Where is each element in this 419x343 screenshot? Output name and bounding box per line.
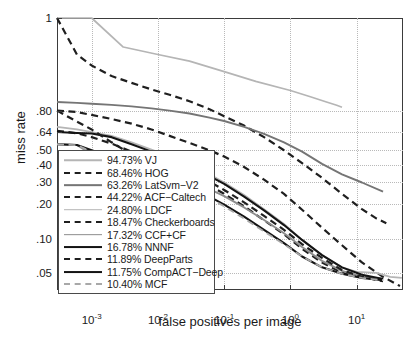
legend-label: 94.73% VJ [104,154,157,166]
y-tick-label: .20 [36,198,52,210]
legend-item-nnnf[interactable]: 16.78% NNNF [62,241,210,253]
y-tick-label: .64 [36,126,52,138]
legend-item-ldcf[interactable]: 24.80% LDCF [62,204,210,216]
legend-swatch [62,229,104,241]
y-tick-label: .40 [36,159,52,171]
legend-swatch [62,278,104,290]
legend-label: 68.46% HOG [104,167,168,179]
legend-swatch [62,204,104,216]
x-tick-mark [290,285,291,290]
chart-root: miss rate 1.80.64.50.40.30.20.10.05 10-3… [0,0,419,343]
y-tick-label: .10 [36,233,52,245]
legend-label: 63.26% LatSvm−V2 [104,179,199,191]
legend-label: 11.89% DeepParts [104,253,193,265]
legend-swatch [62,253,104,265]
legend-item-acf-caltech[interactable]: 44.22% ACF−Caltech [62,191,210,203]
legend-item-deepparts[interactable]: 11.89% DeepParts [62,253,210,265]
legend-label: 18.47% Checkerboards [104,216,215,228]
y-tick-mark [57,132,62,133]
legend-swatch [62,154,104,166]
y-tick-label: .05 [36,267,52,279]
legend-swatch [62,179,104,191]
legend-label: 10.40% MCF [104,278,167,290]
legend-item-latsvm-v2[interactable]: 63.26% LatSvm−V2 [62,179,210,191]
legend-label: 17.32% CCF+CF [104,229,186,241]
y-tick-label: .50 [36,144,52,156]
legend-item-ccf-cf[interactable]: 17.32% CCF+CF [62,228,210,240]
y-axis-label: miss rate [13,88,28,188]
legend-swatch [62,167,104,179]
legend-swatch [62,216,104,228]
series-line-vj [57,18,342,107]
legend-label: 11.75% CompACT−Deep [104,266,223,278]
x-axis-label: false positives per image [57,314,403,329]
legend-label: 16.78% NNNF [104,241,174,253]
legend-swatch [62,191,104,203]
legend-item-hog[interactable]: 68.46% HOG [62,166,210,178]
y-tick-mark [57,18,62,19]
legend-swatch [62,266,104,278]
legend-label: 44.22% ACF−Caltech [104,191,206,203]
legend-item-vj[interactable]: 94.73% VJ [62,154,210,166]
y-tick-label: 1 [46,12,52,24]
y-tick-mark [57,111,62,112]
legend-item-compact-deep[interactable]: 11.75% CompACT−Deep [62,266,210,278]
x-tick-mark [224,285,225,290]
legend-item-checkerboards[interactable]: 18.47% Checkerboards [62,216,210,228]
y-tick-label: .30 [36,176,52,188]
legend-label: 24.80% LDCF [104,204,172,216]
legend-item-mcf[interactable]: 10.40% MCF [62,278,210,290]
legend-swatch [62,241,104,253]
y-tick-label: .80 [36,105,52,117]
legend[interactable]: 94.73% VJ68.46% HOG63.26% LatSvm−V244.22… [58,150,215,294]
x-tick-mark [357,285,358,290]
